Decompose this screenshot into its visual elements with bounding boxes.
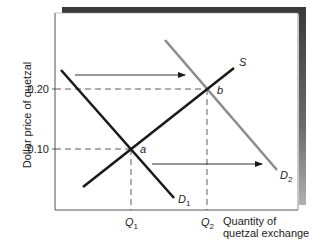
q1-label: Q1 [125, 216, 139, 231]
q2-label: Q2 [201, 216, 215, 231]
point-b-label: b [217, 84, 223, 96]
frame-shadow-right [299, 7, 306, 205]
x-axis-label-line2: quetzal exchange [223, 227, 309, 239]
supply-demand-diagram: Dollar price of quetzal 0.20 0.10 Q1 Q2 … [0, 0, 312, 248]
point-a-label: a [140, 143, 146, 155]
x-axis-label-line1: Quantity of [223, 215, 277, 227]
supply-label: S [239, 56, 247, 68]
tick-label-020: 0.20 [28, 83, 49, 95]
tick-label-010: 0.10 [28, 143, 49, 155]
